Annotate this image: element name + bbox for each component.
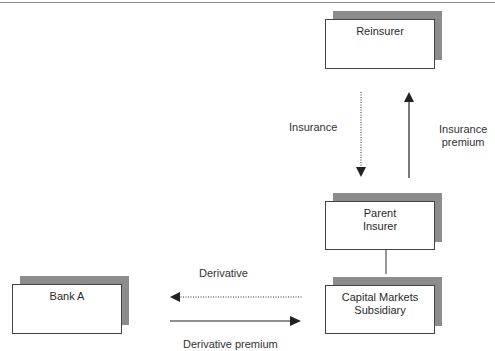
derivative-label: Derivative — [199, 267, 248, 280]
insurance-premium-label: Insurance premium — [439, 123, 487, 149]
arrows-layer — [0, 0, 495, 351]
insurance-label: Insurance — [289, 121, 337, 134]
derivative-arrow — [170, 292, 302, 302]
insurance-premium-line2: premium — [439, 136, 487, 149]
insurance-premium-arrow — [404, 92, 414, 178]
insurance-arrow — [356, 92, 366, 177]
insurance-premium-line1: Insurance — [439, 123, 487, 136]
derivative-premium-arrow — [170, 316, 301, 326]
derivative-premium-label: Derivative premium — [183, 338, 278, 351]
